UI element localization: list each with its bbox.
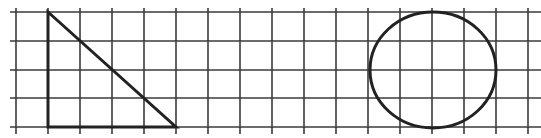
grid-diagram: [0, 0, 541, 138]
grid-lines: [10, 8, 541, 134]
